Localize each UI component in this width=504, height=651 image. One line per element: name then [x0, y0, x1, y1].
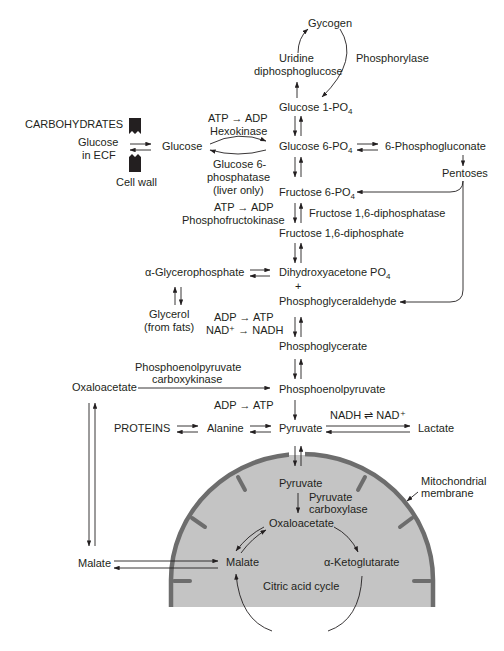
node-alpha-glycerophosphate: α-Glycerophosphate: [145, 266, 244, 278]
label-phosphofructokinase: Phosphofructokinase: [182, 214, 285, 226]
label-fructose-diphosphatase: Fructose 1,6-diphosphatase: [309, 207, 445, 219]
node-oxaloacetate-mito: Oxaloacetate: [269, 517, 334, 529]
node-phosphoglyceraldehyde: Phosphoglyceraldehyde: [279, 295, 396, 307]
label-glucose-ecf-line1: Glucose: [78, 136, 118, 148]
arrow-udpg-to-glycogen: [298, 29, 308, 53]
label-pepck-line1: Phosphoenolpyruvate: [135, 361, 241, 373]
cell-wall-bottom-icon: [129, 154, 141, 172]
node-pentoses: Pentoses: [442, 167, 488, 179]
label-adp-atp-1: ADP → ATP: [214, 311, 274, 323]
label-phosphorylase: Phosphorylase: [356, 52, 429, 64]
label-nad-nadh: NAD⁺ → NADH: [206, 324, 284, 336]
node-alpha-ketoglutarate: α-Ketoglutarate: [324, 556, 399, 568]
node-fructose-1-6-diphosphate: Fructose 1,6-diphosphate: [279, 227, 404, 239]
node-dihydroxyacetone-po4: Dihydroxyacetone PO4: [279, 266, 391, 281]
label-cell-wall: Cell wall: [116, 176, 157, 188]
label-citric-acid-cycle: Citric acid cycle: [263, 580, 339, 592]
metabolic-pathway-diagram: Gycogen Uridine diphosphoglucose Phospho…: [0, 0, 504, 651]
label-g6pase-line1: Glucose 6-: [213, 158, 267, 170]
label-atp-adp-1: ATP → ADP: [208, 112, 268, 124]
label-glycerol-line1: Glycerol: [149, 308, 189, 320]
node-glycogen: Gycogen: [308, 17, 352, 29]
node-glucose: Glucose: [162, 140, 202, 152]
label-g6pase-line2: phosphatase: [207, 171, 270, 183]
label-hexokinase: Hexokinase: [210, 125, 267, 137]
node-malate-cytosol: Malate: [78, 557, 111, 569]
node-6-phosphogluconate: 6-Phosphogluconate: [385, 140, 486, 152]
arrow-glycogen-to-g1p: [322, 29, 347, 97]
label-mito-membrane-line1: Mitochondrial: [421, 475, 486, 487]
cell-wall-top-icon: [129, 118, 141, 134]
node-lactate: Lactate: [418, 422, 454, 434]
node-oxaloacetate-cytosol: Oxaloacetate: [72, 381, 137, 393]
node-malate-mito: Malate: [226, 556, 259, 568]
node-proteins: PROTEINS: [114, 422, 170, 434]
label-carbohydrates: CARBOHYDRATES: [25, 118, 123, 130]
node-phosphoglycerate: Phosphoglycerate: [279, 340, 367, 352]
node-glucose-6-po4: Glucose 6-PO4: [279, 140, 353, 155]
label-pyruvate-carboxylase-line1: Pyruvate: [309, 491, 352, 503]
node-udpg-line2: diphosphoglucose: [254, 65, 343, 77]
label-g6pase-line3: (liver only): [213, 184, 264, 196]
label-plus: +: [295, 280, 301, 292]
label-adp-atp-2: ADP → ATP: [214, 399, 274, 411]
label-mito-membrane-line2: membrane: [421, 487, 474, 499]
arrow-pentoses-to-f6p: [357, 181, 463, 192]
node-fructose-6-po4: Fructose 6-PO4: [279, 186, 356, 201]
label-nadh-nad: NADH ⇌ NAD⁺: [330, 409, 406, 421]
arrow-pentoses-to-pgal: [400, 181, 463, 302]
node-udpg-line1: Uridine: [279, 52, 314, 64]
node-glucose-1-po4: Glucose 1-PO4: [279, 101, 353, 116]
arrow-membrane-pointer: [407, 492, 418, 501]
label-atp-adp-2: ATP → ADP: [214, 201, 274, 213]
label-glucose-ecf-line2: in ECF: [82, 149, 116, 161]
node-pyruvate-cytosol: Pyruvate: [279, 422, 322, 434]
arrow-g6p-to-glucose: [210, 150, 266, 154]
node-phosphoenolpyruvate: Phosphoenolpyruvate: [279, 383, 385, 395]
arrow-glucose-to-g6p: [210, 136, 266, 144]
label-pepck-line2: carboxykinase: [152, 373, 222, 385]
label-pyruvate-carboxylase-line2: carboxylase: [309, 503, 368, 515]
label-glycerol-line2: (from fats): [144, 321, 194, 333]
node-alanine: Alanine: [207, 422, 244, 434]
node-pyruvate-mito: Pyruvate: [279, 477, 322, 489]
